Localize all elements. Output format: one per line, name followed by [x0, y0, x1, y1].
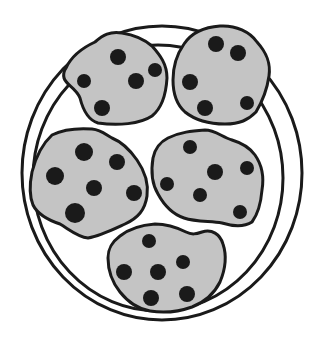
chocolate-chip [240, 161, 254, 175]
chocolate-chip [207, 164, 223, 180]
chocolate-chip [110, 49, 126, 65]
chocolate-chip [126, 185, 142, 201]
chocolate-chip [182, 74, 198, 90]
chocolate-chip [150, 264, 166, 280]
chocolate-chip [230, 45, 246, 61]
cookie-bottom [108, 224, 225, 312]
chocolate-chip [65, 203, 85, 223]
chocolate-chip [148, 63, 162, 77]
chocolate-chip [116, 264, 132, 280]
chocolate-chip [142, 234, 156, 248]
chocolate-chip [240, 96, 254, 110]
chocolate-chip [109, 154, 125, 170]
cookie-plate-illustration [0, 0, 318, 340]
chocolate-chip [179, 286, 195, 302]
chocolate-chip [208, 36, 224, 52]
chocolate-chip [197, 100, 213, 116]
chocolate-chip [193, 188, 207, 202]
chocolate-chip [46, 167, 64, 185]
chocolate-chip [143, 290, 159, 306]
chocolate-chip [86, 180, 102, 196]
chocolate-chip [77, 74, 91, 88]
chocolate-chip [183, 140, 197, 154]
illustration-canvas [0, 0, 318, 340]
chocolate-chip [75, 143, 93, 161]
chocolate-chip [128, 73, 144, 89]
chocolate-chip [160, 177, 174, 191]
chocolate-chip [94, 100, 110, 116]
chocolate-chip [176, 255, 190, 269]
cookie-top-right [173, 26, 269, 124]
chocolate-chip [233, 205, 247, 219]
